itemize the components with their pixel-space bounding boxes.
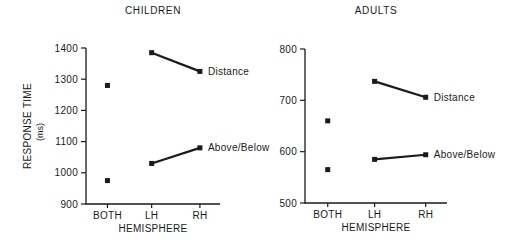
data-point-distance (149, 50, 154, 55)
panel-adults: ADULTS500600700800BOTHLHRHHEMISPHEREDist… (279, 5, 495, 233)
data-point-distance (105, 83, 110, 88)
data-point-above-below (372, 157, 377, 162)
response-time-figure: CHILDREN90010001100120013001400BOTHLHRHH… (0, 0, 513, 250)
dual-panel-line-chart: CHILDREN90010001100120013001400BOTHLHRHH… (0, 0, 513, 250)
series-label-above-below: Above/Below (434, 149, 496, 160)
data-point-distance (197, 69, 202, 74)
panel-children: CHILDREN90010001100120013001400BOTHLHRHH… (22, 5, 270, 234)
y-axis-unit: (ms) (35, 123, 45, 141)
series-line-distance (375, 81, 426, 97)
x-tick-label: LH (368, 209, 381, 220)
y-tick-label: 1100 (55, 136, 78, 147)
series-line-above-below (375, 155, 426, 160)
data-point-distance (423, 95, 428, 100)
y-tick-label: 500 (279, 198, 297, 209)
x-tick-label: LH (145, 210, 158, 221)
y-tick-label: 800 (279, 44, 297, 55)
x-axis-title: HEMISPHERE (341, 222, 410, 233)
x-tick-label: RH (418, 209, 433, 220)
x-axis-title: HEMISPHERE (118, 223, 187, 234)
data-point-above-below (149, 161, 154, 166)
series-label-distance: Distance (208, 66, 249, 77)
y-tick-label: 1200 (55, 105, 79, 116)
panel-title-children: CHILDREN (125, 5, 181, 16)
series-label-distance: Distance (434, 92, 475, 103)
data-point-above-below (197, 145, 202, 150)
y-tick-label: 700 (279, 95, 297, 106)
series-line-above-below (152, 148, 200, 164)
data-point-distance (325, 118, 330, 123)
y-tick-label: 600 (279, 146, 297, 157)
y-tick-label: 900 (60, 199, 78, 210)
series-label-above-below: Above/Below (208, 142, 270, 153)
data-point-above-below (325, 167, 330, 172)
y-tick-label: 1300 (55, 74, 79, 85)
data-point-distance (372, 79, 377, 84)
x-tick-label: BOTH (93, 210, 122, 221)
x-tick-label: RH (192, 210, 207, 221)
series-line-distance (152, 53, 200, 72)
data-point-above-below (105, 178, 110, 183)
data-point-above-below (423, 152, 428, 157)
axis-spine (305, 49, 447, 203)
y-tick-label: 1400 (55, 43, 79, 54)
x-tick-label: BOTH (313, 209, 342, 220)
panel-title-adults: ADULTS (355, 5, 397, 16)
y-tick-label: 1000 (55, 167, 79, 178)
y-axis-title: RESPONSE TIME (22, 83, 33, 169)
